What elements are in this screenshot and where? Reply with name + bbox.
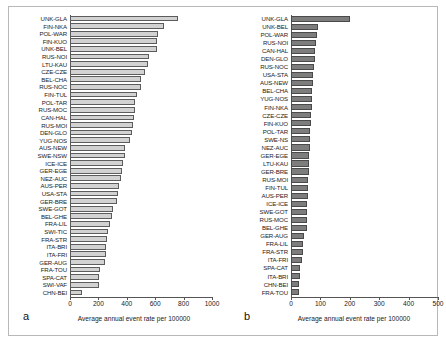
x-axis-a (70, 297, 213, 298)
bar (291, 273, 300, 279)
bar-row (70, 38, 212, 46)
bar (291, 217, 307, 223)
category-label: YUG-NOS (23, 137, 69, 145)
bar-row (291, 55, 438, 63)
category-label: FRA-LIL (23, 220, 69, 228)
bar (70, 99, 135, 105)
category-label: USA-STA (244, 71, 290, 79)
bar-row (70, 106, 212, 114)
bar-row (70, 91, 212, 99)
category-label: SPA-CAT (23, 274, 69, 282)
bar-row (70, 83, 212, 91)
bar (291, 56, 315, 62)
bar-row (291, 248, 438, 256)
x-tick-label: 400 (121, 300, 132, 307)
category-label: BEL-GHE (244, 224, 290, 232)
bar (70, 145, 125, 151)
bar-row (70, 99, 212, 107)
bar (291, 168, 309, 174)
category-label: BEL-CHA (244, 87, 290, 95)
bar-row (291, 200, 438, 208)
category-label: FIN-KUO (244, 120, 290, 128)
bar-row (70, 281, 212, 289)
category-label: RUS-NOI (23, 53, 69, 61)
bar (70, 191, 118, 197)
bar-row (291, 87, 438, 95)
bar-row (291, 95, 438, 103)
bar (291, 48, 315, 54)
bar-row (70, 30, 212, 38)
bar (291, 40, 316, 46)
bar (70, 160, 123, 166)
bar-row (291, 23, 438, 31)
bar (291, 64, 314, 70)
bar-row (291, 160, 438, 168)
x-tick-label: 0 (289, 300, 293, 307)
bar (291, 88, 312, 94)
bar (70, 31, 158, 37)
x-tick-label: 400 (403, 300, 414, 307)
plot-area-b (291, 15, 438, 297)
bar (291, 136, 310, 142)
bar (291, 241, 303, 247)
category-label: YUG-NOS (244, 95, 290, 103)
bar-row (291, 136, 438, 144)
category-label: FRA-STR (23, 236, 69, 244)
bar-row (70, 243, 212, 251)
bar (291, 96, 312, 102)
bar-row (291, 168, 438, 176)
bar-row (291, 47, 438, 55)
category-label: FIN-KUO (23, 38, 69, 46)
bar-row (291, 152, 438, 160)
bar (291, 80, 313, 86)
bar (291, 72, 313, 78)
bar (70, 251, 106, 257)
bar (70, 175, 121, 181)
x-tick-label: 200 (344, 300, 355, 307)
bar (70, 54, 149, 60)
category-label: CAN-HAL (244, 47, 290, 55)
bar (291, 144, 310, 150)
bar (70, 137, 130, 143)
category-label: DEN-GLO (23, 129, 69, 137)
bar (70, 229, 108, 235)
category-label: AUS-PER (23, 182, 69, 190)
category-label: AUS-NEW (23, 144, 69, 152)
category-label: POL-TAR (23, 99, 69, 107)
bar (70, 130, 132, 136)
bar (70, 267, 100, 273)
panel-a: UNK-GLAFIN-NKAPOL-WARFIN-KUOUNK-BELRUS-N… (9, 7, 224, 337)
category-label: FIN-NKA (23, 23, 69, 31)
category-label: USA-STA (23, 190, 69, 198)
bar-row (291, 31, 438, 39)
category-label: GER-AUG (23, 259, 69, 267)
panel-letter-a: a (23, 310, 29, 322)
bar (291, 177, 308, 183)
bar (291, 16, 350, 22)
bar-row (70, 220, 212, 228)
bar-row (70, 45, 212, 53)
category-label: FIN-TUL (244, 184, 290, 192)
x-tick-labels-b: 0100200300400500 (291, 300, 439, 310)
category-label: DEN-GLO (244, 55, 290, 63)
bar-row (291, 281, 438, 289)
bar-row (70, 61, 212, 69)
category-label: RUS-MOI (244, 176, 290, 184)
bar-row (70, 190, 212, 198)
bar-row (70, 274, 212, 282)
x-tick-label: 1000 (205, 300, 220, 307)
category-label: RUS-NOI (244, 39, 290, 47)
category-label: POL-TAR (244, 128, 290, 136)
x-tick-label: 600 (150, 300, 161, 307)
bar (70, 23, 164, 29)
bar (291, 281, 299, 287)
category-label: NEZ-AUC (23, 175, 69, 183)
bar-row (70, 160, 212, 168)
category-labels-b: UNK-GLAUNK-BELPOL-WARRUS-NOICAN-HALDEN-G… (244, 15, 290, 297)
category-label: SWE-NS (244, 136, 290, 144)
bar (70, 153, 125, 159)
x-axis-b (291, 297, 439, 298)
bar-row (70, 266, 212, 274)
bar-row (291, 289, 438, 297)
bar (291, 112, 311, 118)
